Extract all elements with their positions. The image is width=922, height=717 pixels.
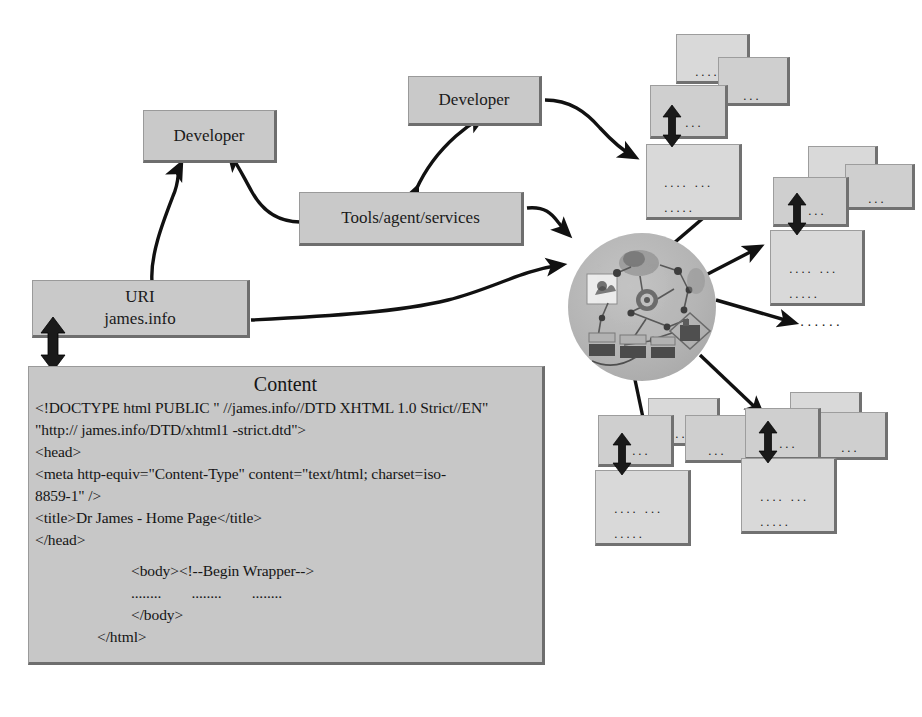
doc-card-medium[interactable]: ... <box>773 177 849 227</box>
doc-card-large[interactable]: .... ... ..... <box>770 230 865 306</box>
content-line: <title>Dr James - Home Page</title> <box>35 507 536 529</box>
doc-card-small[interactable]: ... <box>818 412 888 460</box>
content-line: ........ ........ ........ <box>35 582 536 604</box>
doc-dots: ... <box>632 444 650 457</box>
arrow-tools-to-developer-left <box>231 156 300 222</box>
doc-dots: ... <box>779 437 797 450</box>
doc-dots: ..... <box>760 515 791 528</box>
doc-dots: .... ... <box>664 176 713 189</box>
uri-title: URI <box>125 287 154 307</box>
cluster-top-right-double-arrow <box>661 104 683 148</box>
arrow-uri-to-developer-left <box>152 166 180 282</box>
doc-dots: ... <box>808 204 826 217</box>
doc-dots: ... <box>868 192 886 205</box>
developer-top-label: Developer <box>439 90 510 110</box>
uri-content-double-arrow <box>36 316 70 372</box>
tools-label: Tools/agent/services <box>341 208 480 228</box>
doc-dots: ..... <box>664 201 695 214</box>
cluster-right-double-arrow <box>786 192 808 236</box>
content-line: <body><!--Begin Wrapper--> <box>35 560 536 582</box>
content-line: "http:// james.info/DTD/xhtml1 -strict.d… <box>35 419 536 441</box>
tools-agent-services-box[interactable]: Tools/agent/services <box>299 192 524 246</box>
developer-top-box[interactable]: Developer <box>408 76 542 126</box>
doc-card-small[interactable]: ... <box>718 57 790 106</box>
content-line: </body> <box>35 604 536 626</box>
doc-dots: .... ... <box>614 502 663 515</box>
doc-dots: ... <box>685 116 703 129</box>
doc-dots: ... <box>708 444 726 457</box>
content-line: <meta http-equiv="Content-Type" content=… <box>35 463 536 485</box>
content-line: <head> <box>35 441 536 463</box>
arrow-tools-developer-top <box>416 118 481 190</box>
developer-left-box[interactable]: Developer <box>143 110 277 163</box>
content-line: </head> <box>35 529 536 551</box>
doc-card-medium[interactable]: ... <box>598 415 674 467</box>
content-title: Content <box>35 373 536 396</box>
doc-dots: ... <box>841 441 859 454</box>
arrow-developer-top-to-cluster-top-right <box>545 100 633 156</box>
resource-network-sphere[interactable] <box>568 233 716 381</box>
doc-card-large[interactable]: .... ... ..... <box>595 470 691 546</box>
mid-ellipsis-label: ...... <box>800 312 843 329</box>
doc-dots: ..... <box>614 527 645 540</box>
uri-label-stack: URI james.info <box>104 287 175 328</box>
diagram-canvas: Developer Developer Tools/agent/services… <box>0 0 922 717</box>
network-graphic-icon <box>568 233 716 381</box>
doc-dots: .... ... <box>760 490 809 503</box>
doc-dots: ... <box>743 89 761 102</box>
doc-card-small[interactable]: ... <box>845 164 915 210</box>
arrow-tools-to-sphere <box>527 208 567 233</box>
doc-card-large[interactable]: .... ... ..... <box>646 144 742 220</box>
cluster-bottom-left-double-arrow <box>611 432 633 476</box>
doc-dots: .... ... <box>789 262 838 275</box>
content-panel: Content <!DOCTYPE html PUBLIC " //james.… <box>28 366 545 665</box>
doc-card-large[interactable]: .... ... ..... <box>741 458 837 534</box>
content-line: 8859-1" /> <box>35 485 536 507</box>
content-line: </html> <box>35 626 536 648</box>
content-line: <!DOCTYPE html PUBLIC " //james.info//DT… <box>35 397 536 419</box>
cluster-bottom-right-double-arrow <box>757 420 779 464</box>
doc-dots: ..... <box>789 287 820 300</box>
uri-value: james.info <box>104 309 175 329</box>
arrow-uri-to-sphere <box>251 265 560 320</box>
developer-left-label: Developer <box>174 126 245 146</box>
